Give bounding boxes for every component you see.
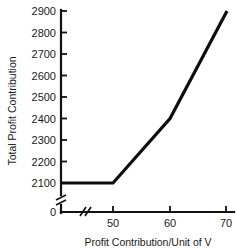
y-tick-label-2600: 2600 [32, 70, 56, 82]
y-tick-label-2700: 2700 [32, 48, 56, 60]
y-tick-label-2900: 2900 [32, 5, 56, 17]
x-tick-label-50: 50 [107, 217, 119, 229]
x-tick-label-70: 70 [220, 217, 232, 229]
x-tick-label-60: 60 [164, 217, 176, 229]
y-tick-label-0: 0 [50, 206, 56, 218]
chart-container: 2900 2800 2700 2600 2500 2400 2300 2200 … [0, 0, 237, 251]
y-tick-label-2400: 2400 [32, 113, 56, 125]
y-axis-title: Total Profit Contribution [6, 56, 18, 165]
y-tick-label-2100: 2100 [32, 177, 56, 189]
y-tick-label-2300: 2300 [32, 134, 56, 146]
y-tick-label-2500: 2500 [32, 91, 56, 103]
y-tick-label-2200: 2200 [32, 156, 56, 168]
profit-contribution-line-chart: 2900 2800 2700 2600 2500 2400 2300 2200 … [0, 0, 237, 251]
x-axis-title: Profit Contribution/Unit of V [84, 236, 211, 248]
y-tick-label-2800: 2800 [32, 27, 56, 39]
